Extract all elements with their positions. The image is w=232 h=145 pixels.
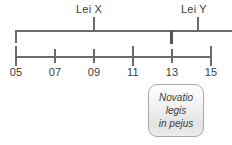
scale-tick-11 [132,46,134,66]
scale-label-07: 07 [43,66,67,79]
callout-line-1: Novatio [159,91,193,104]
novatio-legis-callout-box: Novatio legis in pejus [148,84,204,137]
scale-tick-05 [15,46,17,66]
scale-label-13: 13 [160,66,184,79]
event-label-lei-x: Lei X [76,3,102,16]
upper-axis-line [15,30,232,32]
scale-tick-09 [93,49,95,63]
scale-label-15: 15 [199,66,223,79]
scale-label-09: 09 [82,66,106,79]
upper-axis-start-tick [15,30,17,43]
scale-label-05: 05 [4,66,28,79]
scale-tick-13 [171,49,173,63]
novatio-marker-bar [170,30,173,44]
event-label-lei-y: Lei Y [181,3,207,16]
scale-label-11: 11 [121,66,145,79]
event-tick-lei-y [197,17,199,31]
event-tick-lei-x [93,17,95,31]
callout-line-2: legis [166,104,187,117]
callout-line-3: in pejus [159,117,193,130]
timeline-figure: Lei X Lei Y 05 07 09 11 13 15 Novatio le… [0,0,232,145]
lower-axis-line [15,56,211,58]
scale-tick-15 [210,46,212,66]
scale-tick-07 [54,49,56,63]
